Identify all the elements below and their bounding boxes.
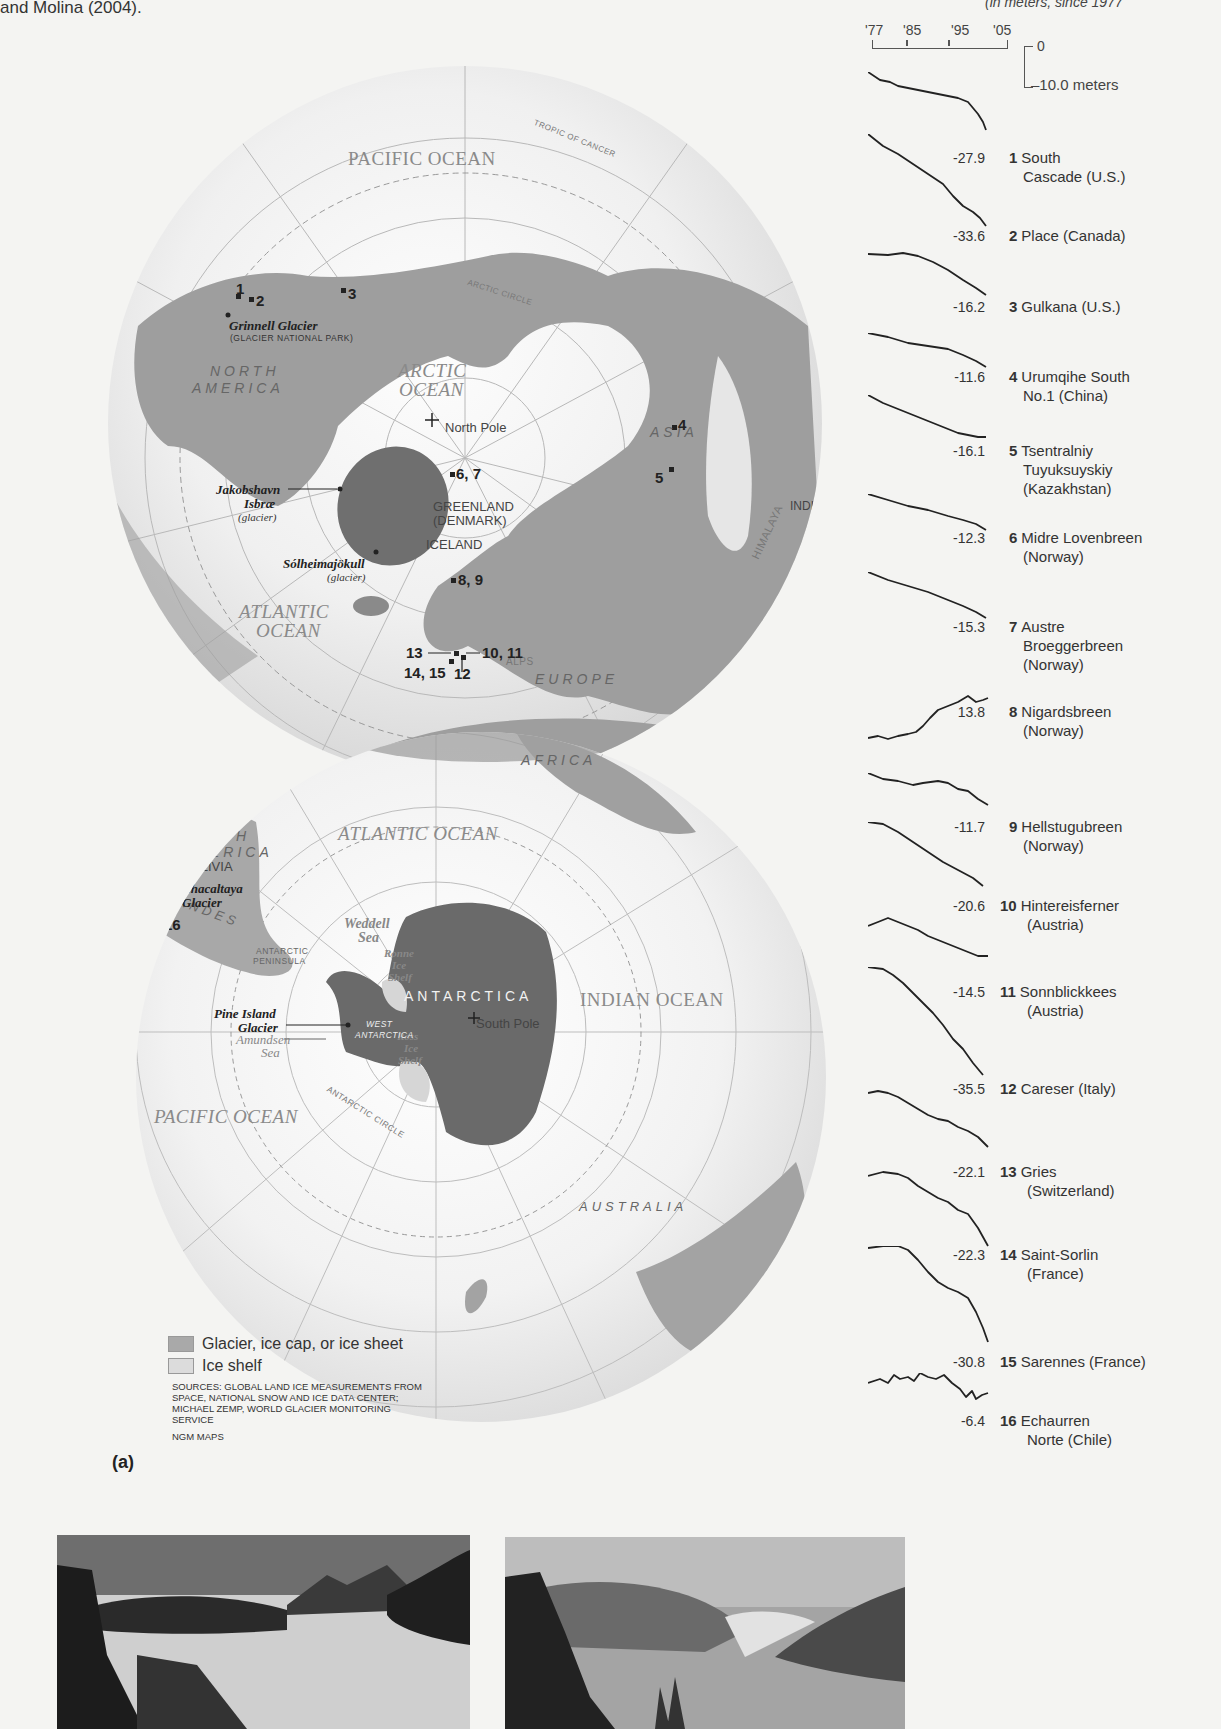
glacier-name-line: Place (Canada): [1021, 227, 1125, 244]
label-pine-island: Pine Island: [214, 1007, 276, 1021]
map-legend: Glacier, ice cap, or ice sheet Ice shelf: [168, 1333, 403, 1377]
label-chacaltaya: Chacaltaya: [182, 882, 243, 896]
glacier-label: 12Careser (Italy): [1000, 1079, 1116, 1098]
sparkline-value: -16.1: [925, 443, 985, 459]
glacier-name-line: South: [1021, 149, 1060, 166]
sparkline-value: -20.6: [925, 898, 985, 914]
glacier-name-line: Gulkana (U.S.): [1021, 298, 1120, 315]
glacier-number: 2: [1009, 227, 1017, 244]
glacier-name-line: (Norway): [1023, 547, 1084, 566]
glacier-name-line: Echaurren: [1021, 1412, 1090, 1429]
glacier-swatch-icon: [168, 1336, 194, 1352]
label-south-pole: South Pole: [476, 1017, 540, 1031]
year-tick-label: '95: [951, 22, 969, 38]
label-isbrae: Isbræ: [244, 497, 275, 511]
label-chacaltaya-glacier: Glacier: [182, 896, 222, 910]
legend-item-ice-shelf: Ice shelf: [168, 1355, 403, 1377]
glacier-number: 6: [1009, 529, 1017, 546]
intro-text: and Molina (2004).: [0, 0, 142, 18]
label-australia: AUSTRALIA: [579, 1199, 687, 1215]
glacier-number: 5: [1009, 442, 1017, 459]
glacier-name-line: (Austria): [1027, 915, 1084, 934]
marker-label-13: 13: [406, 644, 423, 661]
label-solheimajokull-sub: (glacier): [327, 571, 365, 583]
year-tick-label: '77: [865, 22, 883, 38]
glacier-name-line: Sarennes (France): [1021, 1353, 1146, 1370]
marker-label-5: 5: [655, 469, 663, 486]
glacier-photo-after-image: [505, 1537, 905, 1729]
label-ross-ice: Ice: [404, 1042, 418, 1054]
glacier-label: 16EchaurrenNorte (Chile): [1000, 1411, 1112, 1449]
year-tick-label: '05: [993, 22, 1011, 38]
glacier-number: 13: [1000, 1163, 1017, 1180]
sources-note: SOURCES: GLOBAL LAND ICE MEASUREMENTS FR…: [172, 1381, 432, 1425]
label-glacier-national-park: (GLACIER NATIONAL PARK): [230, 333, 353, 343]
label-america-south: AMERICA: [181, 844, 273, 860]
label-grinnell-glacier: Grinnell Glacier: [229, 319, 317, 333]
sparkline-value: -12.3: [925, 530, 985, 546]
label-ronne-ice: Ice: [392, 959, 406, 971]
glacier-name-line: Nigardsbreen: [1021, 703, 1111, 720]
label-jakobshavn-sub: (glacier): [238, 511, 276, 523]
glacier-number: 16: [1000, 1412, 1017, 1429]
glacier-name-line: Hellstugubreen: [1021, 818, 1122, 835]
glacier-name-line: Midre Lovenbreen: [1021, 529, 1142, 546]
glacier-label: 4Urumqihe SouthNo.1 (China): [1009, 367, 1130, 405]
marker-label-14-15: 14, 15: [404, 664, 446, 681]
label-antarctic: ANTARCTIC: [256, 946, 309, 956]
legend-label: Ice shelf: [202, 1357, 262, 1375]
glacier-photo-before-image: [57, 1535, 470, 1729]
scale-minus-label: –10.0 meters: [1031, 76, 1119, 93]
map-credit: NGM MAPS: [172, 1431, 224, 1442]
glacier-number: 1: [1009, 149, 1017, 166]
label-amundsen-sea: Sea: [261, 1045, 280, 1061]
label-bolivia: BOLIVIA: [182, 860, 233, 874]
ice-shelf-swatch-icon: [168, 1358, 194, 1374]
glacier-name-line: Hintereisferner: [1021, 897, 1119, 914]
label-west: WEST: [366, 1019, 393, 1029]
glacier-number: 7: [1009, 618, 1017, 635]
glacier-name-line: Sonnblickkees: [1020, 983, 1117, 1000]
sparkline-value: -15.3: [925, 619, 985, 635]
scale-tick: [948, 40, 950, 46]
legend-label: Glacier, ice cap, or ice sheet: [202, 1335, 403, 1353]
label-india: INDIA: [790, 499, 822, 513]
marker-label-6-7: 6, 7: [456, 465, 481, 482]
marker-label-1: 1: [236, 280, 244, 297]
label-antarctica: ANTARCTICA: [404, 988, 532, 1004]
glacier-name-line: (Austria): [1027, 1001, 1084, 1020]
glacier-number: 4: [1009, 368, 1017, 385]
glacier-label: 9Hellstugubreen(Norway): [1009, 817, 1122, 855]
glacier-name-line: No.1 (China): [1023, 386, 1108, 405]
marker-label-10-11: 10, 11: [482, 644, 523, 661]
marker-label-3: 3: [348, 285, 356, 302]
glacier-name-line: Broeggerbreen: [1023, 636, 1123, 655]
label-ronne-shelf: Shelf: [388, 971, 412, 983]
glacier-label: 11Sonnblickkees(Austria): [1000, 982, 1117, 1020]
label-ross-shelf: Shelf: [398, 1054, 422, 1066]
glacier-label: 5TsentralniyTuyuksuyskiy(Kazakhstan): [1009, 441, 1112, 498]
scale-tick: [906, 40, 908, 46]
glacier-name-line: Tsentralniy: [1021, 442, 1093, 459]
year-scale-bar: [872, 40, 1008, 49]
glacier-name-line: (Norway): [1023, 836, 1084, 855]
glacier-name-line: Norte (Chile): [1027, 1430, 1112, 1449]
glacier-number: 10: [1000, 897, 1017, 914]
sparkline-value: -6.4: [925, 1413, 985, 1429]
sparkline-chart: [868, 1373, 998, 1493]
year-tick-label: '85: [903, 22, 921, 38]
glacier-name-line: Urumqihe South: [1021, 368, 1129, 385]
glacier-photo-after: [505, 1537, 905, 1729]
label-weddell-sea: Sea: [358, 930, 379, 946]
glacier-number: 11: [1000, 983, 1016, 1000]
sparkline-value: 13.8: [925, 704, 985, 720]
label-peninsula: PENINSULA: [253, 956, 306, 966]
glacier-label: 14Saint-Sorlin(France): [1000, 1245, 1098, 1283]
marker-label-2: 2: [256, 292, 264, 309]
glacier-label: 1SouthCascade (U.S.): [1009, 148, 1126, 186]
glacier-name-line: (Norway): [1023, 655, 1084, 674]
marker-label-8-9: 8, 9: [458, 571, 483, 588]
north-hemisphere-globe: PACIFIC OCEAN ARCTIC OCEAN ATLANTIC OCEA…: [108, 66, 822, 780]
label-iceland: ICELAND: [426, 538, 482, 552]
glacier-label: 15Sarennes (France): [1000, 1352, 1146, 1371]
